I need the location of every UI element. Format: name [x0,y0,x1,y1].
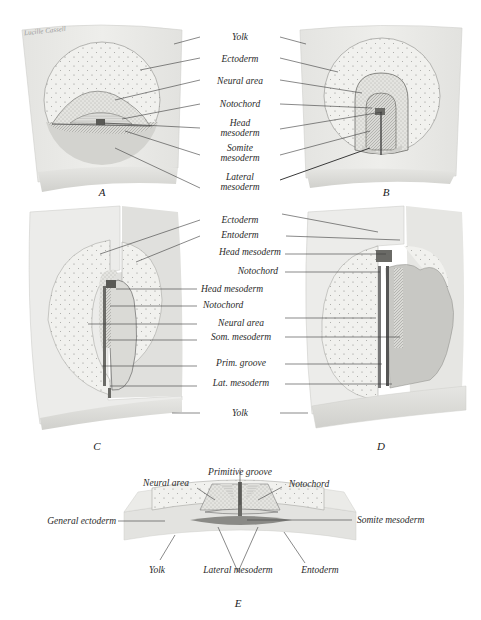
panel-letter-a: A [99,186,106,198]
panel-letter-b: B [383,186,390,198]
label-somite-mesoderm-ab-2: mesoderm [220,153,259,163]
label-notochord-ab: Notochord [220,99,260,109]
label-prim-groove-cd: Prim. groove [216,358,266,368]
label-neural-area-ab: Neural area [217,76,263,86]
label-head-mesoderm-c: Head mesoderm [201,284,263,294]
label-lat-mesoderm-cd: Lat. mesoderm [213,378,269,388]
label-somite-mesoderm-e: Somite mesoderm [357,515,424,525]
label-ectoderm-ab: Ectoderm [222,54,259,64]
label-head-mesoderm-d: Head mesoderm [219,247,281,257]
label-entoderm-e: Entoderm [301,565,338,575]
label-ectoderm-cd: Ectoderm [222,215,259,225]
label-notochord-d: Notochord [238,266,278,276]
panel-a-block [22,25,182,192]
label-neural-area-e: Neural area [143,478,189,488]
panel-b-block [300,25,462,188]
label-lateral-mesoderm-ab-1: Lateral [226,172,254,182]
panel-c-block [29,206,182,430]
label-notochord-e: Notochord [289,479,329,489]
label-notochord-c: Notochord [203,300,243,310]
label-head-mesoderm-ab-1: Head [230,118,251,128]
panel-letter-e: E [235,597,242,609]
label-yolk-ab: Yolk [232,32,248,42]
label-entoderm-cd: Entoderm [221,230,258,240]
label-yolk-cd: Yolk [232,408,248,418]
embryo-diagram-figure [0,0,481,620]
label-lateral-mesoderm-ab-2: mesoderm [220,182,259,192]
label-general-ectoderm-e: General ectoderm [47,516,116,526]
label-head-mesoderm-ab-2: mesoderm [220,128,259,138]
label-som-mesoderm-cd: Som. mesoderm [211,332,271,342]
panel-letter-c: C [93,440,100,452]
label-primitive-groove-e: Primitive groove [208,467,272,477]
label-yolk-e: Yolk [149,565,165,575]
label-neural-area-cd: Neural area [218,318,264,328]
label-somite-mesoderm-ab-1: Somite [227,143,253,153]
label-lateral-mesoderm-e: Lateral mesoderm [203,565,272,575]
panel-letter-d: D [377,440,385,452]
